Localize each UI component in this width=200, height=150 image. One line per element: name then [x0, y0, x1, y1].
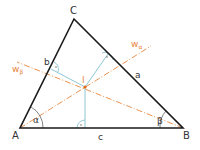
- vertex-label-a: A: [12, 130, 19, 141]
- right-angle-dot-a: [106, 56, 107, 57]
- right-angle-arc-c: [77, 120, 85, 128]
- side-label-c: c: [98, 132, 103, 142]
- side-label-a: a: [135, 70, 141, 80]
- bisector-label-w-alpha: wα: [131, 39, 142, 50]
- right-angle-dot-c: [80, 124, 81, 125]
- triangle-abc: [20, 19, 183, 128]
- angle-label-beta: β: [157, 116, 163, 126]
- incenter-point: [83, 85, 86, 88]
- vertex-label-b: B: [183, 130, 190, 141]
- vertex-label-c: C: [70, 5, 77, 16]
- side-label-b: b: [44, 57, 50, 67]
- incenter-label: I: [82, 75, 85, 85]
- perpendicular-to-a: [85, 54, 108, 87]
- triangle-diagram: C A B a b c α β I wα wβ: [0, 0, 200, 150]
- right-angle-dot-b: [55, 66, 56, 67]
- angle-label-alpha: α: [33, 115, 39, 125]
- bisector-label-w-beta: wβ: [12, 64, 23, 76]
